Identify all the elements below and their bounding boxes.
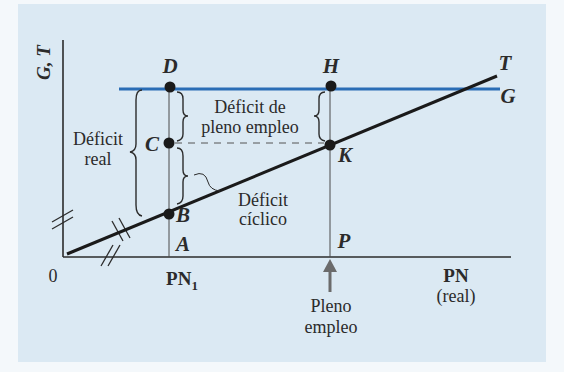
deficit-cyclic-leader [194, 174, 220, 191]
label-g-line: G [500, 84, 515, 108]
label-h: H [322, 54, 340, 78]
label-t-line: T [499, 51, 513, 75]
label-b: B [175, 203, 190, 227]
deficit-full-brace-left-icon [177, 92, 188, 141]
full-employment-label-line2: empleo [305, 317, 358, 337]
pn1-label: PN1 [166, 268, 198, 293]
point-k [325, 140, 336, 151]
deficit-full-label-line2: pleno empleo [201, 117, 298, 137]
deficit-full-label-line1: Déficit de [214, 97, 285, 117]
label-k: K [337, 143, 354, 167]
x-axis-sublabel: (real) [437, 286, 476, 307]
label-c: C [145, 132, 160, 156]
full-employment-arrow-icon [323, 259, 337, 292]
label-d: D [161, 54, 177, 78]
label-p: P [337, 229, 351, 253]
deficit-full-brace-right-icon [314, 92, 325, 141]
point-c [164, 138, 175, 149]
point-b [164, 209, 175, 220]
x-axis-break-icon [101, 245, 120, 266]
deficit-real-label-line2: real [85, 149, 112, 169]
point-h [326, 81, 337, 92]
deficit-cyclic-brace-icon [177, 148, 188, 204]
x-axis-label: PN [443, 265, 469, 286]
deficit-diagram: G, T D C B A H K P T G Déficit real Défi… [0, 0, 564, 372]
label-a: A [174, 232, 190, 256]
deficit-real-brace-icon [130, 90, 142, 216]
origin-label: 0 [49, 266, 58, 286]
y-axis-label: G, T [33, 44, 54, 80]
deficit-cyclic-label-line1: Déficit [238, 190, 288, 210]
point-d [165, 82, 176, 93]
deficit-real-label-line1: Déficit [73, 129, 123, 149]
deficit-cyclic-label-line2: cíclico [239, 209, 287, 229]
full-employment-label-line1: Pleno [310, 296, 351, 316]
